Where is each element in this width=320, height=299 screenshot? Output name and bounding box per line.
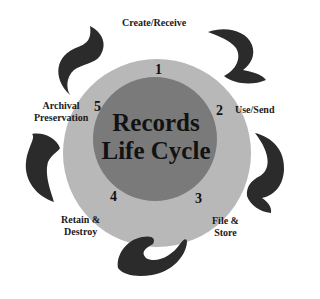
stage-number-4: 4	[110, 190, 117, 204]
title-line-2: Life Cycle	[76, 137, 236, 165]
stage-label-use-send: Use/Send	[235, 104, 274, 116]
stage-label-line: Destroy	[61, 226, 100, 238]
curved-arrow-icon	[26, 134, 60, 202]
stage-label-archival-preservation: Archival Preservation	[34, 100, 88, 124]
stage-number-1: 1	[155, 63, 162, 77]
stage-label-line: Store	[212, 227, 239, 239]
stage-number-2: 2	[216, 104, 223, 118]
stage-label-file-store: File & Store	[212, 215, 239, 239]
stage-label-line: File &	[212, 215, 239, 227]
diagram-title: Records Life Cycle	[76, 109, 236, 165]
curved-arrow-icon	[208, 29, 266, 83]
stage-number-3: 3	[195, 192, 202, 206]
stage-number-5: 5	[94, 100, 101, 114]
curved-arrow-icon	[247, 133, 284, 213]
stage-label-line: Archival	[34, 100, 88, 112]
stage-label-line: Preservation	[34, 112, 88, 124]
stage-label-line: Retain &	[61, 214, 100, 226]
stage-label-create-receive: Create/Receive	[122, 17, 186, 29]
stage-label-retain-destroy: Retain & Destroy	[61, 214, 100, 238]
